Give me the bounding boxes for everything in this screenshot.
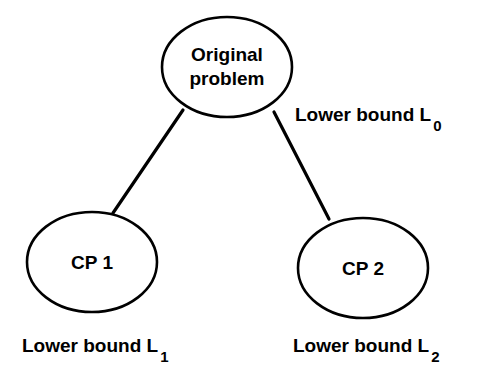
lower-bound-l2-label: Lower bound L (293, 335, 430, 356)
lower-bound-l2-subscript: 2 (431, 348, 439, 365)
edge-root-to-cp2 (274, 112, 329, 219)
original-problem-label-line1: Original (191, 44, 263, 65)
cp2-label: CP 2 (342, 258, 384, 279)
diagram-canvas: Original problem CP 1 CP 2 Lower bound L… (0, 0, 483, 379)
original-problem-node[interactable] (162, 17, 292, 117)
lower-bound-l1-subscript: 1 (160, 348, 168, 365)
branch-and-bound-diagram: Original problem CP 1 CP 2 Lower bound L… (0, 0, 483, 379)
cp1-label: CP 1 (71, 252, 113, 273)
original-problem-label-line2: problem (190, 68, 265, 89)
lower-bound-l1-label: Lower bound L (22, 335, 159, 356)
lower-bound-l0-label: Lower bound L (295, 104, 432, 125)
edge-root-to-cp1 (113, 110, 183, 213)
lower-bound-l0-subscript: 0 (433, 117, 441, 134)
